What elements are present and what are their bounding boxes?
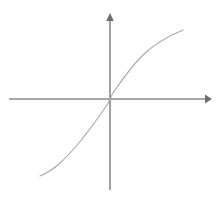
plot-canvas [0, 0, 222, 200]
y-axis-arrow-icon [106, 13, 114, 21]
x-axis-arrow-icon [205, 95, 212, 104]
plot-figure [0, 0, 222, 200]
function-curve [40, 30, 183, 176]
